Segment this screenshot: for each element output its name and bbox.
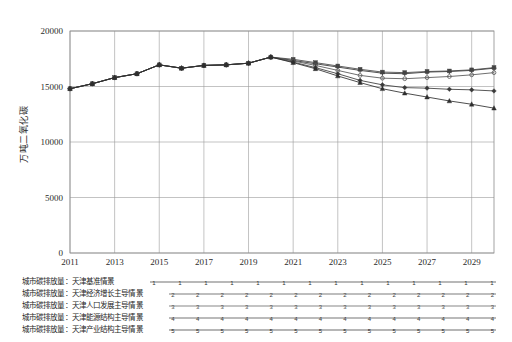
svg-text:5: 5 — [466, 328, 470, 334]
legend-item-label: 城市碳排放量：天津基准情景 — [0, 275, 114, 286]
chart-page: 0500010000150002000020112013201520172019… — [0, 0, 512, 342]
legend-sample-series-5: 55555555555555 — [169, 322, 496, 334]
legend-item: 城市碳排放量：天津能源结构主导情景 44444444444444 — [0, 310, 512, 322]
y-axis-tick-label: 5000 — [45, 193, 64, 203]
legend-sample-series-2: 22222222222222 — [169, 286, 496, 298]
y-axis-label: 万吨二氧化碳 — [16, 84, 30, 184]
x-axis-tick-label: 2027 — [418, 257, 437, 267]
chart-series-line — [68, 55, 497, 110]
emissions-line-chart: 0500010000150002000020112013201520172019… — [0, 0, 512, 272]
svg-text:5: 5 — [269, 328, 273, 334]
svg-text:5: 5 — [196, 328, 200, 334]
legend-item-label: 城市碳排放量：天津能源结构主导情景 — [0, 311, 143, 322]
x-axis-tick-label: 2013 — [106, 257, 125, 267]
legend-item-label: 城市碳排放量：天津经济增长主导情景 — [0, 287, 143, 298]
x-axis-tick-label: 2011 — [61, 257, 79, 267]
svg-text:5: 5 — [171, 328, 175, 334]
legend-item: 城市碳排放量：天津人口发展主导情景 33333333333333 — [0, 298, 512, 310]
svg-text:5: 5 — [343, 328, 347, 334]
legend-sample-line: 55555555555555 — [169, 324, 496, 336]
y-axis-label-text: 万吨二氧化碳 — [17, 106, 30, 163]
svg-text:5: 5 — [294, 328, 298, 334]
chart-canvas: 0500010000150002000020112013201520172019… — [0, 0, 512, 272]
x-axis-tick-label: 2021 — [284, 257, 302, 267]
legend-item-label: 城市碳排放量：天津产业结构主导情景 — [0, 323, 143, 334]
chart-series-line — [68, 55, 497, 93]
y-axis-tick-label: 15000 — [41, 82, 64, 92]
legend-sample-series-3: 33333333333333 — [169, 298, 496, 310]
legend-sample-series-4: 44444444444444 — [169, 310, 496, 322]
svg-text:5: 5 — [490, 328, 494, 334]
x-axis-tick-label: 2015 — [150, 257, 169, 267]
legend-item: 城市碳排放量：天津基准情景 11111111111111 — [0, 274, 512, 286]
svg-text:5: 5 — [220, 328, 224, 334]
x-axis-tick-label: 2019 — [240, 257, 259, 267]
svg-text:5: 5 — [441, 328, 445, 334]
svg-text:5: 5 — [392, 328, 396, 334]
svg-text:5: 5 — [245, 328, 249, 334]
legend-item: 城市碳排放量：天津产业结构主导情景 55555555555555 — [0, 322, 512, 334]
legend-item: 城市碳排放量：天津经济增长主导情景 22222222222222 — [0, 286, 512, 298]
x-axis-tick-label: 2025 — [373, 257, 392, 267]
x-axis-tick-label: 2023 — [329, 257, 348, 267]
svg-text:5: 5 — [417, 328, 421, 334]
x-axis-tick-label: 2029 — [463, 257, 482, 267]
chart-series-line — [68, 55, 496, 90]
y-axis-tick-label: 20000 — [41, 26, 64, 36]
x-axis-tick-label: 2017 — [195, 257, 214, 267]
svg-text:5: 5 — [368, 328, 372, 334]
legend-item-label: 城市碳排放量：天津人口发展主导情景 — [0, 299, 143, 310]
chart-legend: 城市碳排放量：天津基准情景 11111111111111 城市碳排放量：天津经济… — [0, 274, 512, 342]
chart-series-line — [68, 55, 496, 90]
y-axis-tick-label: 10000 — [41, 137, 64, 147]
legend-sample-series-1: 11111111111111 — [150, 274, 496, 286]
svg-text:5: 5 — [318, 328, 322, 334]
